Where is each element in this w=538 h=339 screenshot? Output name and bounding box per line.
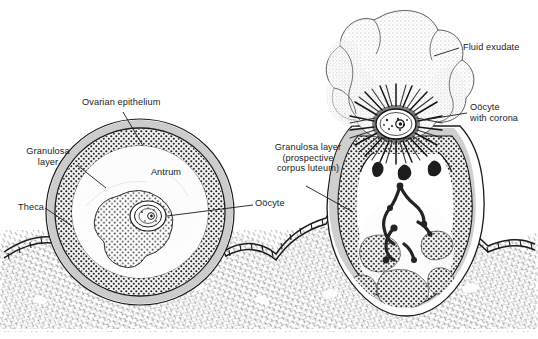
label-granulosa-prospective: Granulosa layer (prospective corpus lute… — [256, 142, 360, 174]
label-antrum: Antrum — [134, 167, 198, 178]
label-granulosa-layer: Granulosa layer — [14, 146, 82, 167]
label-ovarian-epithelium: Ovarian epithelium — [82, 97, 160, 108]
label-fluid-exudate: Fluid exudate — [463, 42, 519, 53]
label-oocyte-left: Oöcyte — [255, 198, 285, 209]
label-oocyte-with-corona: Oöcyte with corona — [470, 102, 518, 123]
oocyte-left — [130, 201, 166, 231]
label-theca: Theca — [18, 202, 44, 213]
ovary-follicle-diagram: Ovarian epithelium Granulosa layer Theca… — [0, 0, 538, 339]
